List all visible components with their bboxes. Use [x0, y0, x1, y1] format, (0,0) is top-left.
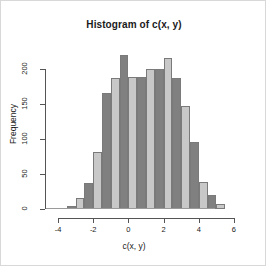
histogram-bar: [102, 93, 111, 209]
y-axis-line: [45, 69, 46, 209]
histogram-bar: [120, 55, 129, 209]
y-axis-tick: [40, 209, 45, 210]
x-axis-tick: [93, 218, 94, 223]
histogram-bar: [164, 58, 173, 209]
histogram-bar: [128, 77, 137, 209]
histogram-bar: [146, 69, 155, 209]
y-axis-tick-label: 50: [20, 162, 29, 184]
histogram-bars: [51, 49, 241, 209]
x-axis-tick: [128, 218, 129, 223]
x-axis-tick-label: 2: [156, 225, 172, 234]
y-axis-tick-label: 150: [20, 92, 29, 114]
histogram-bar: [84, 183, 93, 209]
histogram-bar: [93, 152, 102, 209]
histogram-bar: [190, 142, 199, 209]
y-axis-tick: [40, 104, 45, 105]
histogram-bar: [199, 182, 208, 209]
x-axis-line: [58, 218, 234, 219]
x-axis-tick: [199, 218, 200, 223]
x-axis-tick-label: 0: [120, 225, 136, 234]
y-axis-tick: [40, 139, 45, 140]
y-axis-title: Frequency: [8, 79, 18, 169]
y-axis-tick: [40, 174, 45, 175]
histogram-screenshot: Histogram of c(x, y) 050100150200 -4-202…: [0, 0, 266, 266]
y-axis-tick-label: 0: [20, 198, 29, 220]
x-axis-tick: [58, 218, 59, 223]
histogram-bar: [172, 78, 181, 209]
histogram-bar: [137, 77, 146, 209]
histogram-bar: [181, 106, 190, 209]
x-axis-tick-label: 4: [191, 225, 207, 234]
x-axis-tick-label: -4: [50, 225, 66, 234]
x-axis-tick-label: -2: [85, 225, 101, 234]
baseline-rule: [45, 208, 215, 209]
y-axis-tick-label: 100: [20, 127, 29, 149]
x-axis-tick: [234, 218, 235, 223]
x-axis-title: c(x, y): [1, 241, 266, 251]
plot-area: [51, 49, 241, 209]
histogram-bar: [111, 78, 120, 209]
page-title: Histogram of c(x, y): [1, 19, 266, 30]
histogram-bar: [155, 69, 164, 209]
y-axis-tick: [40, 69, 45, 70]
x-axis-tick-label: 6: [226, 225, 242, 234]
histogram-bar: [208, 195, 217, 209]
histogram-bar: [216, 204, 225, 209]
y-axis-tick-label: 200: [20, 57, 29, 79]
x-axis-tick: [164, 218, 165, 223]
